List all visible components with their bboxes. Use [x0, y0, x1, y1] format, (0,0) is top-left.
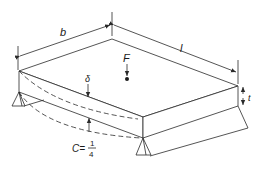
support-triangle-left — [12, 92, 25, 106]
label-c-numerator: 1 — [90, 139, 95, 148]
label-c: C= — [72, 143, 85, 154]
support-triangle-front — [136, 138, 151, 155]
label-b: b — [60, 26, 66, 38]
label-c-denominator: 4 — [89, 150, 94, 159]
plate-diagram: b l F δ t C= 1 4 — [0, 0, 265, 170]
label-l: l — [180, 42, 183, 54]
label-t: t — [248, 93, 251, 103]
